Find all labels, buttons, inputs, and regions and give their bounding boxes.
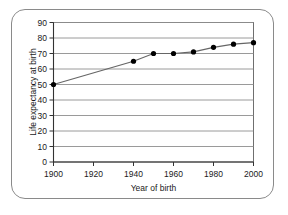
x-tick-label-1980: 1980 — [204, 169, 223, 179]
y-tick-label-20: 20 — [38, 126, 48, 136]
data-point — [251, 40, 256, 45]
y-tick-label-10: 10 — [38, 142, 48, 152]
y-tick-label-70: 70 — [38, 49, 48, 59]
data-point — [231, 42, 236, 47]
data-point — [51, 82, 56, 87]
x-tick-label-2000: 2000 — [244, 169, 263, 179]
y-tick-label-40: 40 — [38, 95, 48, 105]
x-axis-title: Year of birth — [131, 183, 177, 193]
line-chart: 90 80 70 60 50 40 30 20 10 0 1900 1920 1… — [0, 0, 288, 215]
x-tick-label-1900: 1900 — [44, 169, 63, 179]
y-tick-label-60: 60 — [38, 64, 48, 74]
x-tick-label-1960: 1960 — [164, 169, 183, 179]
y-tick-label-80: 80 — [38, 33, 48, 43]
x-tick-labels: 1900 1920 1940 1960 1980 2000 — [44, 169, 263, 179]
plot-frame — [54, 23, 254, 163]
y-tick-label-30: 30 — [38, 111, 48, 121]
data-point — [171, 51, 176, 56]
data-point — [211, 45, 216, 50]
y-axis-title: Life expectancy at birth — [28, 48, 38, 136]
data-point — [131, 59, 136, 64]
x-tick-marks — [54, 162, 254, 166]
y-tick-label-50: 50 — [38, 80, 48, 90]
y-tick-labels: 90 80 70 60 50 40 30 20 10 0 — [38, 18, 48, 168]
x-tick-label-1940: 1940 — [124, 169, 143, 179]
y-tick-label-90: 90 — [38, 18, 48, 28]
y-tick-marks — [50, 23, 54, 163]
y-tick-label-0: 0 — [42, 157, 47, 167]
x-tick-label-1920: 1920 — [84, 169, 103, 179]
figure-container: 90 80 70 60 50 40 30 20 10 0 1900 1920 1… — [0, 0, 288, 215]
data-point — [151, 51, 156, 56]
data-point — [191, 49, 196, 54]
